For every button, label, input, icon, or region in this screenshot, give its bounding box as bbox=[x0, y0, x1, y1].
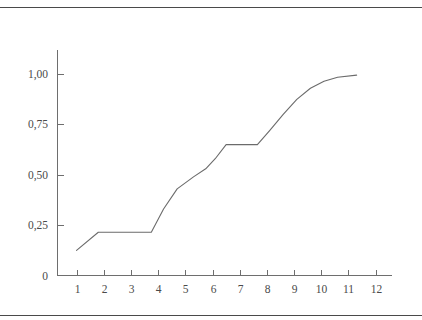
y-axis-tick-label: 0,25 bbox=[8, 219, 48, 231]
x-axis-tick-label: 11 bbox=[339, 283, 359, 295]
x-axis-tick-label: 9 bbox=[285, 283, 305, 295]
x-axis-tick-label: 5 bbox=[176, 283, 196, 295]
x-axis-tick-label: 1 bbox=[68, 283, 88, 295]
y-axis-tick-label: 0,50 bbox=[8, 169, 48, 181]
x-axis-tick-label: 6 bbox=[204, 283, 224, 295]
figure-page: 00,250,500,751,00 123456789101112 bbox=[0, 0, 422, 320]
x-axis-tick-label: 8 bbox=[258, 283, 278, 295]
y-axis-tick-label: 1,00 bbox=[8, 68, 48, 80]
chart-axes bbox=[58, 50, 393, 276]
x-axis-tick-label: 4 bbox=[149, 283, 169, 295]
page-rule-bottom bbox=[0, 315, 422, 316]
data-series-line bbox=[77, 75, 357, 250]
x-axis-tick-label: 3 bbox=[122, 283, 142, 295]
x-axis-tick-label: 12 bbox=[367, 283, 387, 295]
x-axis-tick-label: 7 bbox=[231, 283, 251, 295]
x-axis-tick-label: 10 bbox=[312, 283, 332, 295]
chart-plot-svg bbox=[0, 10, 422, 310]
x-axis-ticks bbox=[78, 270, 377, 276]
y-axis-tick-label: 0,75 bbox=[8, 118, 48, 130]
y-axis-ticks bbox=[58, 75, 64, 226]
page-rule-top bbox=[0, 7, 422, 8]
x-axis-tick-label: 2 bbox=[95, 283, 115, 295]
line-chart: 00,250,500,751,00 123456789101112 bbox=[0, 10, 422, 310]
y-axis-tick-label: 0 bbox=[8, 270, 48, 282]
